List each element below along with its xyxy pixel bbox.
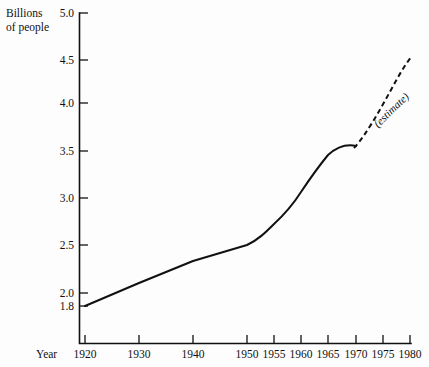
y-axis-title-line-2: of people — [6, 21, 49, 34]
y-axis-title-line-1: Billions — [6, 7, 43, 19]
y-tick-label-4-5: 4.5 — [60, 54, 75, 66]
y-tick-label-2-0: 2.0 — [60, 287, 75, 299]
y-axis-title: Billions of people — [6, 7, 49, 34]
population-chart-figure: 5.0 4.5 4.0 3.5 3.0 2.5 2.0 1.8 Billions… — [0, 0, 429, 367]
estimate-annotation: (estimate) — [371, 90, 412, 130]
x-tick-label-1975: 1975 — [372, 348, 395, 360]
y-tick-label-1-8: 1.8 — [60, 300, 75, 312]
chart-axes — [80, 13, 412, 344]
x-tick-label-1940: 1940 — [182, 348, 205, 360]
x-tick-label-1960: 1960 — [290, 348, 313, 360]
chart-canvas: 5.0 4.5 4.0 3.5 3.0 2.5 2.0 1.8 Billions… — [0, 0, 429, 367]
y-tick-label-3-0: 3.0 — [60, 192, 75, 204]
y-tick-label-2-5: 2.5 — [60, 239, 75, 251]
x-tick-label-1950: 1950 — [236, 348, 259, 360]
y-tick-label-5-0: 5.0 — [60, 7, 75, 19]
y-tick-label-4-0: 4.0 — [60, 97, 75, 109]
x-tick-label-1955: 1955 — [263, 348, 286, 360]
x-tick-label-1965: 1965 — [317, 348, 340, 360]
x-tick-label-1930: 1930 — [128, 348, 151, 360]
x-axis-title: Year — [36, 348, 57, 360]
x-tick-label-1980: 1980 — [399, 348, 422, 360]
x-tick-label-1920: 1920 — [74, 348, 97, 360]
population-line-observed — [85, 145, 356, 306]
y-axis-ticks — [80, 13, 89, 306]
x-tick-label-1970: 1970 — [345, 348, 368, 360]
x-axis-tick-labels: 1920 1930 1940 1950 1955 1960 1965 1970 … — [74, 348, 422, 360]
y-tick-label-3-5: 3.5 — [60, 145, 75, 157]
y-axis-tick-labels: 5.0 4.5 4.0 3.5 3.0 2.5 2.0 1.8 — [60, 7, 75, 312]
x-axis-ticks — [85, 335, 410, 344]
